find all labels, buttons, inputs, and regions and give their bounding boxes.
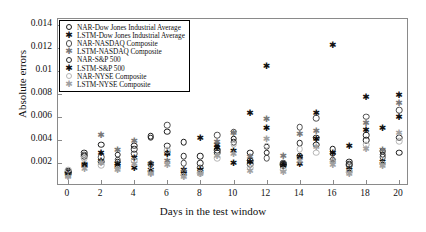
x-tick-label: 10	[218, 188, 248, 198]
data-point: ✱	[196, 165, 205, 174]
data-point: ✱	[212, 152, 221, 161]
data-point: ✱	[378, 124, 387, 133]
data-point: ✱	[262, 62, 271, 71]
data-point: ✱	[246, 153, 255, 162]
data-point: ✱	[113, 160, 122, 169]
data-point	[65, 169, 72, 176]
data-point: ✱	[179, 165, 188, 174]
data-point	[280, 167, 287, 174]
data-point	[131, 150, 138, 157]
data-point: ✱	[328, 148, 337, 157]
data-point: ✱	[345, 141, 354, 150]
data-point: ✱	[328, 161, 337, 170]
x-tick	[200, 180, 201, 184]
x-tick-label: 14	[284, 188, 314, 198]
data-point: ✱	[395, 99, 404, 108]
data-point	[98, 154, 105, 161]
data-point: ✱	[130, 137, 139, 146]
data-point	[114, 159, 121, 166]
data-point: ✱	[295, 130, 304, 139]
data-point: ✱	[279, 160, 288, 169]
data-point	[164, 122, 171, 129]
data-point	[114, 165, 121, 172]
data-point: ✱	[312, 134, 321, 143]
data-point: ✱	[295, 160, 304, 169]
data-point	[379, 152, 386, 159]
data-point: ✱	[179, 168, 188, 177]
data-point: ✱	[246, 167, 255, 176]
data-point: ✱	[361, 93, 370, 102]
x-tick-label: 16	[317, 188, 347, 198]
data-point: ✱	[328, 41, 337, 50]
data-point: ✱	[146, 170, 155, 179]
data-point: ✱	[279, 168, 288, 177]
data-point: ✱	[246, 109, 255, 118]
data-point: ✱	[113, 146, 122, 155]
y-axis-title: Absolute errors	[16, 24, 28, 144]
data-point	[396, 107, 403, 114]
plot-area: ✱✱✱✱✱✱✱✱✱✱✱✱✱✱✱✱✱✱✱✱✱✱✱✱✱✱✱✱✱✱✱✱✱✱✱✱✱✱✱✱…	[57, 18, 408, 185]
data-point: ✱	[63, 170, 72, 179]
data-point	[181, 139, 188, 146]
data-point: ✱	[295, 156, 304, 165]
data-point: ✱	[246, 157, 255, 166]
x-tick	[167, 180, 168, 184]
legend-swatch: ✱	[65, 64, 73, 73]
x-tick	[134, 180, 135, 184]
data-point	[346, 169, 353, 176]
y-tick	[58, 94, 62, 95]
data-point	[81, 152, 88, 159]
data-point	[330, 159, 337, 166]
data-point: ✱	[345, 170, 354, 179]
data-point: ✱	[146, 169, 155, 178]
data-point	[396, 149, 403, 156]
data-point	[147, 161, 154, 168]
x-tick-label: 6	[151, 188, 181, 198]
data-point	[131, 142, 138, 149]
data-point	[280, 161, 287, 168]
data-point	[263, 144, 270, 151]
x-tick	[101, 180, 102, 184]
data-point: ✱	[378, 146, 387, 155]
data-point	[346, 159, 353, 166]
data-point	[98, 159, 105, 166]
data-point	[396, 138, 403, 145]
data-point	[296, 140, 303, 147]
y-tick-label: 0.012	[6, 41, 52, 51]
x-tick-label: 2	[85, 188, 115, 198]
x-tick-label: 12	[251, 188, 281, 198]
data-point: ✱	[395, 91, 404, 100]
data-point	[214, 155, 221, 162]
data-point	[247, 164, 254, 171]
legend-item[interactable]: ✱LSTM-NYSE Composite	[63, 80, 185, 88]
data-point: ✱	[229, 129, 238, 138]
data-point	[181, 172, 188, 179]
x-tick-label: 8	[184, 188, 214, 198]
data-point	[280, 160, 287, 167]
data-point	[313, 134, 320, 141]
data-point: ✱	[361, 145, 370, 154]
data-point	[346, 161, 353, 168]
y-tick-label: 0.01	[6, 64, 52, 74]
legend-swatch: ✱	[65, 80, 73, 89]
data-point	[164, 147, 171, 154]
y-tick	[58, 117, 62, 118]
data-point	[181, 160, 188, 167]
data-point	[363, 132, 370, 139]
data-point	[247, 161, 254, 168]
data-point	[263, 155, 270, 162]
data-point	[330, 146, 337, 153]
data-point	[147, 133, 154, 140]
data-point	[147, 134, 154, 141]
data-point	[379, 148, 386, 155]
data-point	[131, 157, 138, 164]
data-point: ✱	[97, 131, 106, 140]
data-point: ✱	[130, 160, 139, 169]
data-point: ✱	[163, 161, 172, 170]
data-point: ✱	[345, 163, 354, 172]
data-point	[81, 149, 88, 156]
data-point: ✱	[63, 170, 72, 179]
data-point	[197, 164, 204, 171]
data-point	[214, 149, 221, 156]
legend-swatch: ✱	[65, 47, 73, 56]
